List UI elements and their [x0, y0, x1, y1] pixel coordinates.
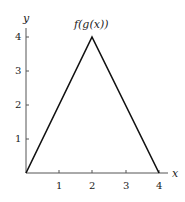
x-tick-label: 2 — [89, 180, 95, 191]
function-label: f(g(x)) — [73, 18, 108, 31]
y-tick-label: 3 — [15, 65, 21, 76]
y-tick-label: 1 — [15, 133, 21, 144]
series-line — [26, 37, 159, 173]
y-axis-label: y — [22, 12, 30, 25]
y-ticks: 1 2 3 4 — [15, 31, 29, 144]
x-axis-label: x — [172, 167, 179, 180]
y-tick-label: 4 — [15, 31, 21, 42]
chart: y x 1 2 3 4 1 2 3 4 f(g(x)) — [0, 0, 185, 202]
x-tick-label: 1 — [56, 180, 62, 191]
x-tick-label: 4 — [156, 180, 162, 191]
y-tick-label: 2 — [15, 99, 21, 110]
x-tick-label: 3 — [123, 180, 129, 191]
